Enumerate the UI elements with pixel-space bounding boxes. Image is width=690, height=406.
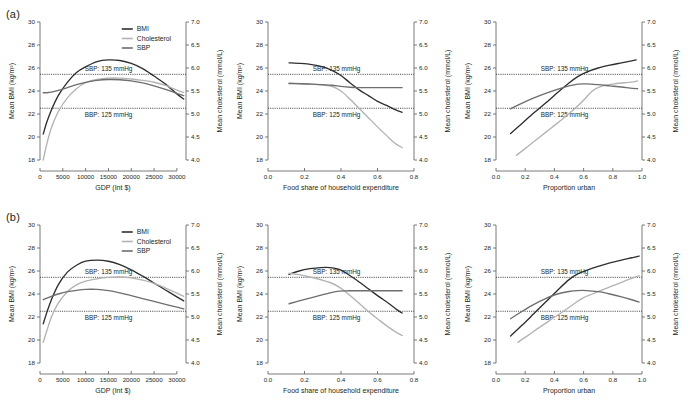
x-axis-ticklabel: 0.6 bbox=[373, 173, 382, 180]
reference-line-label: BBP: 125 mmHg bbox=[85, 314, 133, 322]
right-axis-ticklabel: 6.5 bbox=[191, 41, 200, 48]
left-axis-ticklabel: 26 bbox=[28, 267, 35, 274]
left-axis: 18202224262830Mean BMI (kg/m²) bbox=[464, 221, 496, 366]
left-axis-ticklabel: 22 bbox=[484, 313, 491, 320]
x-axis: 0.00.20.40.60.81.0Proportion urban bbox=[492, 168, 647, 192]
x-axis-ticklabel: 10000 bbox=[77, 173, 95, 180]
right-axis-ticklabel: 4.5 bbox=[647, 336, 656, 343]
left-axis-ticklabel: 18 bbox=[28, 156, 35, 163]
panel-b-urban: 18202224262830Mean BMI (kg/m²)4.04.55.05… bbox=[456, 203, 686, 406]
left-axis-ticklabel: 24 bbox=[256, 290, 263, 297]
x-axis-title: Proportion urban bbox=[543, 387, 595, 395]
right-axis-ticklabel: 7.0 bbox=[419, 18, 428, 25]
right-axis-ticklabel: 6.0 bbox=[419, 64, 428, 71]
left-axis: 18202224262830Mean BMI (kg/m²) bbox=[8, 18, 40, 163]
right-axis-ticklabel: 5.0 bbox=[191, 313, 200, 320]
x-axis-ticklabel: 20000 bbox=[123, 376, 141, 383]
right-axis-title: Mean cholesterol (mmol/L) bbox=[216, 253, 224, 336]
right-axis-ticklabel: 4.0 bbox=[647, 359, 656, 366]
left-axis-ticklabel: 24 bbox=[256, 87, 263, 94]
legend-label-cholesterol: Cholesterol bbox=[137, 238, 172, 245]
right-axis-ticklabel: 6.0 bbox=[191, 267, 200, 274]
right-axis: 4.04.55.05.56.06.57.0Mean cholesterol (m… bbox=[186, 18, 224, 163]
x-axis: 0.00.20.40.60.81.0Proportion urban bbox=[492, 371, 647, 395]
right-axis-ticklabel: 4.5 bbox=[419, 336, 428, 343]
right-axis: 4.04.55.05.56.06.57.0Mean cholesterol (m… bbox=[414, 18, 452, 163]
left-axis: 18202224262830Mean BMI (kg/m²) bbox=[236, 18, 268, 163]
right-axis-ticklabel: 6.0 bbox=[191, 64, 200, 71]
right-axis-ticklabel: 4.0 bbox=[191, 156, 200, 163]
right-axis-ticklabel: 6.5 bbox=[647, 41, 656, 48]
right-axis-ticklabel: 4.0 bbox=[191, 359, 200, 366]
right-axis-ticklabel: 5.5 bbox=[191, 87, 200, 94]
left-axis-ticklabel: 20 bbox=[256, 133, 263, 140]
left-axis: 18202224262830Mean BMI (kg/m²) bbox=[464, 18, 496, 163]
right-axis-ticklabel: 5.5 bbox=[419, 87, 428, 94]
chart-b-urban: 18202224262830Mean BMI (kg/m²)4.04.55.05… bbox=[456, 203, 686, 406]
reference-line-label: BBP: 125 mmHg bbox=[313, 314, 361, 322]
left-axis-ticklabel: 30 bbox=[256, 18, 263, 25]
x-axis-ticklabel: 0.2 bbox=[300, 376, 309, 383]
right-axis-ticklabel: 6.5 bbox=[419, 41, 428, 48]
x-axis-title: Food share of household expenditure bbox=[283, 184, 399, 192]
curve-sbp bbox=[289, 291, 402, 304]
right-axis-ticklabel: 5.5 bbox=[647, 290, 656, 297]
right-axis-ticklabel: 7.0 bbox=[419, 221, 428, 228]
left-axis-ticklabel: 30 bbox=[484, 221, 491, 228]
left-axis-ticklabel: 20 bbox=[484, 133, 491, 140]
x-axis-title: GDP (Int $) bbox=[95, 184, 130, 192]
curve-cholesterol bbox=[289, 273, 402, 335]
legend: BMICholesterolSBP bbox=[122, 228, 172, 254]
x-axis-ticklabel: 15000 bbox=[100, 173, 118, 180]
x-axis-ticklabel: 0.6 bbox=[373, 376, 382, 383]
right-axis-ticklabel: 5.5 bbox=[419, 290, 428, 297]
right-axis-ticklabel: 6.0 bbox=[419, 267, 428, 274]
right-axis-ticklabel: 4.5 bbox=[191, 133, 200, 140]
chart-b-gdp: 18202224262830Mean BMI (kg/m²)4.04.55.05… bbox=[0, 203, 230, 406]
x-axis-ticklabel: 25000 bbox=[145, 173, 163, 180]
reference-line-label: SBP: 135 mmHg bbox=[541, 65, 589, 73]
left-axis-ticklabel: 26 bbox=[484, 64, 491, 71]
left-axis-title: Mean BMI (kg/m²) bbox=[8, 266, 16, 322]
chart-a-foodshare: 18202224262830Mean BMI (kg/m²)4.04.55.05… bbox=[228, 0, 458, 203]
left-axis-ticklabel: 22 bbox=[28, 110, 35, 117]
right-axis-ticklabel: 7.0 bbox=[647, 18, 656, 25]
x-axis-ticklabel: 0.2 bbox=[300, 173, 309, 180]
x-axis-ticklabel: 0.6 bbox=[579, 376, 588, 383]
panel-b-gdp: (b) 18202224262830Mean BMI (kg/m²)4.04.5… bbox=[0, 203, 230, 406]
left-axis-ticklabel: 24 bbox=[28, 87, 35, 94]
curves bbox=[289, 63, 402, 148]
panel-a-gdp: (a) 18202224262830Mean BMI (kg/m²)4.04.5… bbox=[0, 0, 230, 203]
left-axis-ticklabel: 22 bbox=[28, 313, 35, 320]
x-axis-ticklabel: 0.8 bbox=[608, 376, 617, 383]
legend-label-sbp: SBP bbox=[137, 44, 151, 51]
curve-cholesterol bbox=[43, 277, 184, 342]
right-axis-ticklabel: 4.0 bbox=[419, 359, 428, 366]
figure-row-b: (b) 18202224262830Mean BMI (kg/m²)4.04.5… bbox=[0, 203, 690, 406]
right-axis-ticklabel: 6.5 bbox=[419, 244, 428, 251]
right-axis-ticklabel: 7.0 bbox=[647, 221, 656, 228]
left-axis-ticklabel: 18 bbox=[256, 359, 263, 366]
left-axis-ticklabel: 28 bbox=[256, 41, 263, 48]
x-axis-ticklabel: 0.6 bbox=[579, 173, 588, 180]
right-axis-ticklabel: 4.5 bbox=[419, 133, 428, 140]
left-axis-ticklabel: 26 bbox=[256, 267, 263, 274]
right-axis-ticklabel: 4.0 bbox=[419, 156, 428, 163]
x-axis: 050001000015000200002500030000GDP (Int $… bbox=[38, 168, 186, 192]
x-axis-ticklabel: 25000 bbox=[145, 376, 163, 383]
x-axis-ticklabel: 0.4 bbox=[337, 376, 346, 383]
left-axis-ticklabel: 26 bbox=[256, 64, 263, 71]
curve-cholesterol bbox=[518, 276, 639, 343]
left-axis-ticklabel: 24 bbox=[484, 87, 491, 94]
left-axis-ticklabel: 28 bbox=[484, 41, 491, 48]
left-axis-title: Mean BMI (kg/m²) bbox=[8, 63, 16, 119]
x-axis-ticklabel: 0.8 bbox=[410, 173, 419, 180]
x-axis-ticklabel: 30000 bbox=[168, 173, 186, 180]
curve-cholesterol bbox=[516, 81, 637, 156]
left-axis-title: Mean BMI (kg/m²) bbox=[464, 63, 472, 119]
left-axis-ticklabel: 24 bbox=[484, 290, 491, 297]
right-axis-ticklabel: 5.5 bbox=[647, 87, 656, 94]
reference-lines: SBP: 135 mmHgBBP: 125 mmHg bbox=[40, 268, 186, 322]
x-axis-title: GDP (Int $) bbox=[95, 387, 130, 395]
reference-lines: SBP: 135 mmHgBBP: 125 mmHg bbox=[496, 65, 642, 119]
